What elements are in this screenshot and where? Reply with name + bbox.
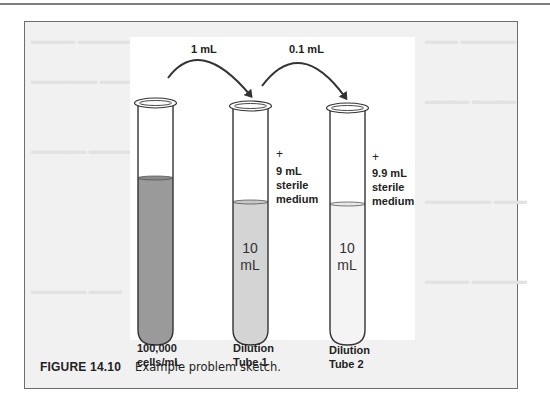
tube-stock — [135, 98, 177, 345]
tube-2-volume-unit: mL — [329, 257, 365, 274]
added-medium-tube-2: medium — [372, 194, 414, 208]
tube-2-label-line2: Tube 2 — [329, 357, 364, 371]
tube-1-label-line1: Dilution — [233, 341, 274, 355]
figure-number: FIGURE 14.10 — [40, 360, 121, 374]
tube-dilution-1 — [230, 101, 272, 345]
figure-caption: FIGURE 14.10Example problem sketch. — [40, 360, 281, 374]
dilution-diagram — [0, 0, 550, 413]
tube-2-label-line1: Dilution — [329, 343, 370, 357]
added-volume-tube-2: 9.9 mL — [372, 166, 407, 180]
transfer-label-2: 0.1 mL — [289, 42, 324, 56]
tube-1-volume-number: 10 — [232, 240, 268, 257]
added-medium-tube-1: medium — [276, 192, 318, 206]
transfer-arrow-2 — [262, 63, 345, 97]
stock-label-concentration: 100,000 — [137, 341, 177, 355]
plus-sign-tube-2: + — [372, 150, 379, 164]
tube-2-volume-number: 10 — [329, 240, 365, 257]
tube-dilution-2 — [327, 103, 369, 345]
added-sterile-tube-1: sterile — [276, 178, 308, 192]
transfer-arrow-1 — [168, 60, 250, 95]
tube-1-volume-unit: mL — [232, 257, 268, 274]
added-volume-tube-1: 9 mL — [276, 164, 302, 178]
figure-caption-text: Example problem sketch. — [135, 360, 281, 374]
plus-sign-tube-1: + — [276, 147, 283, 161]
added-sterile-tube-2: sterile — [372, 180, 404, 194]
transfer-label-1: 1 mL — [191, 42, 217, 56]
